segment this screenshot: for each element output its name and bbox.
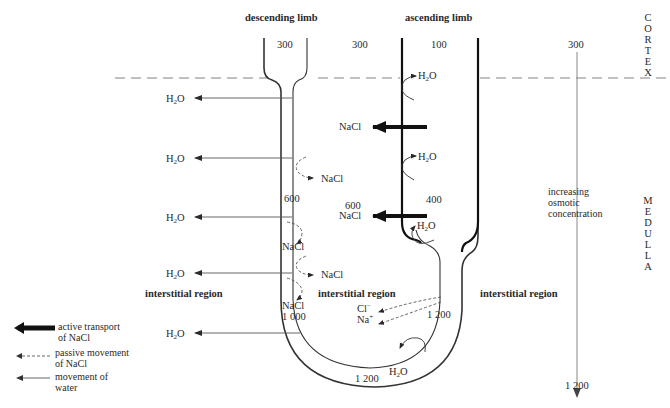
gradient-line-3: concentration <box>548 208 602 219</box>
water-label: H2O <box>166 153 185 164</box>
legend-label: movement of <box>55 372 108 383</box>
legend-label: water <box>55 383 108 394</box>
dashed-arrow-icon <box>16 353 50 359</box>
interstitial-label-left: interstitial region <box>145 288 223 299</box>
nacl-passive-label: NaCl <box>282 300 304 311</box>
interstitial-label-right: interstitial region <box>480 288 558 299</box>
nacl-passive-label: NaCl <box>321 173 343 184</box>
osmotic-gradient-arrow <box>573 52 581 398</box>
ascending-limb-tube <box>402 38 478 252</box>
conc-interstitial-bottom: 1 200 <box>565 380 589 391</box>
legend-icons <box>14 322 55 381</box>
nacl-passive-label: NaCl <box>321 269 343 280</box>
nacl-active-label: NaCl <box>339 121 361 132</box>
thin-arrow-icon <box>16 375 50 381</box>
legend-label: of NaCl <box>55 359 129 370</box>
water-label: H2O <box>166 93 185 104</box>
ascending-limb-label: ascending limb <box>405 12 472 23</box>
legend-label: of NaCl <box>58 333 120 344</box>
legend-label: active transport <box>58 322 120 333</box>
water-label: H2O <box>166 212 185 223</box>
descending-limb-label: descending limb <box>245 12 318 23</box>
legend-label: passive movement <box>55 348 129 359</box>
legend-item-active-transport: active transport of NaCl <box>58 322 120 343</box>
water-label: H2O <box>417 220 436 231</box>
nacl-active-label: NaCl <box>339 210 361 221</box>
sodium-ion-label: Na+ <box>357 314 373 325</box>
legend-item-passive-movement: passive movement of NaCl <box>55 348 129 369</box>
conc-descending-top: 300 <box>277 39 293 50</box>
water-label: H2O <box>389 366 408 377</box>
nacl-passive-label: NaCl <box>282 241 304 252</box>
gradient-line-1: increasing <box>548 186 602 197</box>
conc-interstitial-top: 300 <box>568 39 584 50</box>
water-label: H2O <box>166 268 185 279</box>
conc-ascending-thin-bottom: 1 200 <box>427 309 451 320</box>
legend-item-water-movement: movement of water <box>55 372 108 393</box>
conc-between-top: 300 <box>352 39 368 50</box>
thick-arrow-icon <box>14 322 55 334</box>
descending-limb-tube <box>264 38 478 387</box>
medulla-label: MEDULLA <box>643 195 653 272</box>
water-label: H2O <box>418 70 437 81</box>
interstitial-label-middle: interstitial region <box>318 288 396 299</box>
conc-ascending-mid: 400 <box>426 194 442 205</box>
water-label: H2O <box>418 151 437 162</box>
gradient-line-2: osmotic <box>548 197 602 208</box>
conc-loop-bottom: 1 200 <box>355 373 379 384</box>
active-transport-arrows <box>373 127 427 216</box>
conc-descending-bottom: 1 000 <box>282 311 306 322</box>
cortex-label: CORTEX <box>643 12 653 78</box>
osmotic-gradient-label: increasing osmotic concentration <box>548 186 602 219</box>
conc-ascending-top: 100 <box>431 39 447 50</box>
water-label: H2O <box>166 328 185 339</box>
conc-descending-mid: 600 <box>284 193 300 204</box>
